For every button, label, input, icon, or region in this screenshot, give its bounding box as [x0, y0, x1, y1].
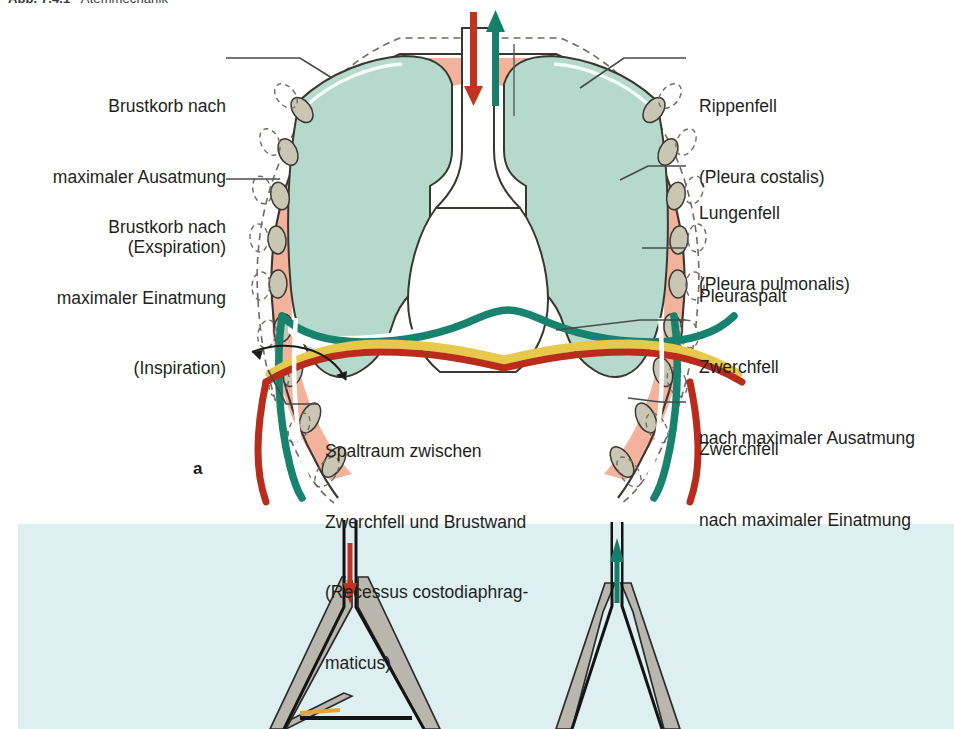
panel-a-letter: a	[193, 459, 202, 479]
label-line: (Recessus costodiaphrag-	[325, 581, 655, 605]
figure-root: Abb. 7.4.1·Atemmechanik	[0, 0, 954, 729]
label-line: maximaler Einatmung	[24, 287, 226, 311]
label-spaltraum-recessus: Spaltraum zwischen Zwerchfell und Brustw…	[325, 393, 655, 722]
label-line: maticus)	[325, 652, 655, 676]
label-line: Pleuraspalt	[699, 285, 949, 309]
label-line: Brustkorb nach	[40, 95, 226, 119]
label-zwerchfell-einatmung: Zwerchfell nach maximaler Einatmung	[699, 391, 949, 579]
label-line: Zwerchfell	[699, 438, 949, 462]
label-line: Zwerchfell	[699, 356, 949, 380]
label-line: Zwerchfell und Brustwand	[325, 511, 655, 535]
label-line: Spaltraum zwischen	[325, 440, 655, 464]
label-line: Lungenfell	[699, 202, 949, 226]
label-line: (Inspiration)	[24, 357, 226, 381]
label-line: Rippenfell	[699, 95, 949, 119]
label-brustkorb-einatmung: Brustkorb nach maximaler Einatmung (Insp…	[24, 169, 226, 428]
label-line: Brustkorb nach	[24, 216, 226, 240]
label-line: nach maximaler Einatmung	[699, 509, 949, 533]
